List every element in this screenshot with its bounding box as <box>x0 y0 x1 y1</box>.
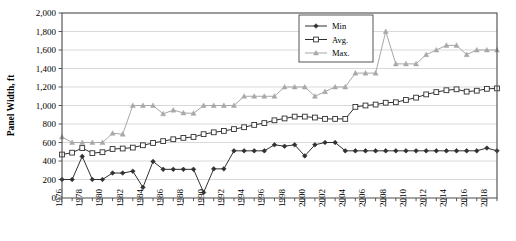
y-axis-title: Panel Width, ft <box>6 74 16 137</box>
data-point-marker <box>242 125 247 130</box>
data-point-marker <box>373 102 378 107</box>
data-point-marker <box>161 139 166 144</box>
y-tick-label: 1,400 <box>36 64 57 74</box>
data-point-marker <box>211 130 216 135</box>
chart-legend: MinAvg.Max. <box>299 15 373 62</box>
data-point-marker <box>474 88 479 93</box>
data-point-marker <box>444 88 449 93</box>
data-point-marker <box>181 135 186 140</box>
data-point-marker <box>272 118 277 123</box>
data-point-marker <box>221 129 226 134</box>
data-point-marker <box>151 141 156 146</box>
data-point-marker <box>393 100 398 105</box>
data-point-marker <box>141 143 146 148</box>
data-point-marker <box>383 100 388 105</box>
y-tick-label: 600 <box>43 138 57 148</box>
data-point-marker <box>343 117 348 122</box>
y-tick-label: 1,800 <box>36 27 57 37</box>
data-point-marker <box>80 146 85 151</box>
data-point-marker <box>434 90 439 95</box>
y-tick-label: 1,200 <box>36 82 57 92</box>
data-point-marker <box>201 132 206 137</box>
data-point-marker <box>292 114 297 119</box>
data-point-marker <box>120 146 125 151</box>
data-point-marker <box>363 103 368 108</box>
y-tick-label: 1,000 <box>36 101 57 111</box>
data-point-marker <box>484 86 489 91</box>
data-point-marker <box>333 117 338 122</box>
data-point-marker <box>282 116 287 121</box>
legend-label: Min <box>332 21 347 31</box>
y-tick-label: 200 <box>43 175 57 185</box>
data-point-marker <box>100 150 105 155</box>
data-point-marker <box>130 145 135 150</box>
data-point-marker <box>313 115 318 120</box>
data-point-marker <box>252 123 257 128</box>
data-point-marker <box>110 147 115 152</box>
y-tick-label: 2,000 <box>36 8 57 18</box>
data-point-marker <box>302 114 307 119</box>
data-point-marker <box>171 137 176 142</box>
data-point-marker <box>191 135 196 140</box>
data-point-marker <box>232 127 237 132</box>
data-point-marker <box>70 150 75 155</box>
y-tick-label: 1,600 <box>36 45 57 55</box>
chart-container: 02004006008001,0001,2001,4001,6001,8002,… <box>0 0 516 241</box>
data-point-marker <box>414 95 419 100</box>
y-axis-title-label: Panel Width, ft <box>6 74 16 137</box>
data-point-marker <box>262 121 267 126</box>
legend-marker-swatch <box>314 37 319 42</box>
data-point-marker <box>424 92 429 97</box>
data-point-marker <box>353 104 358 109</box>
data-point-marker <box>454 87 459 92</box>
data-point-marker <box>404 98 409 103</box>
legend-label: Max. <box>332 48 350 58</box>
data-point-marker <box>464 89 469 94</box>
data-point-marker <box>323 117 328 122</box>
y-tick-label: 800 <box>43 119 57 129</box>
panel-width-line-chart: 02004006008001,0001,2001,4001,6001,8002,… <box>0 0 516 241</box>
data-point-marker <box>90 151 95 156</box>
y-tick-label: 400 <box>43 156 57 166</box>
legend-label: Avg. <box>332 35 348 45</box>
